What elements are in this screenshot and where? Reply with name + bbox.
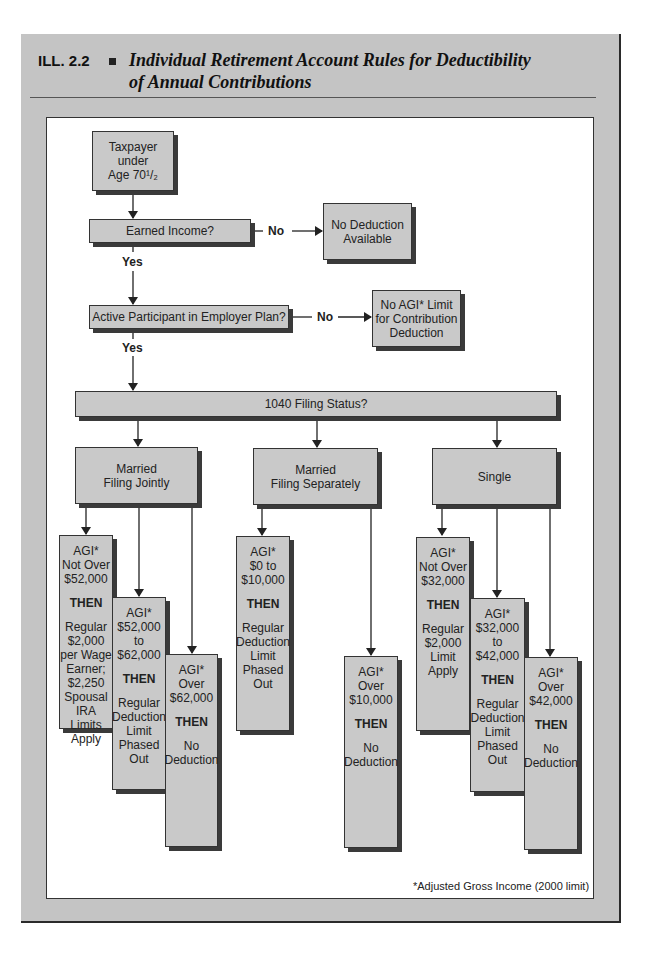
node-text: Apply: [428, 664, 458, 678]
node-text: Limit: [430, 650, 455, 664]
node-text: Limit: [126, 724, 151, 738]
node-text: Over: [178, 677, 204, 691]
node-text: Taxpayer: [109, 140, 158, 154]
node-text: No AGI* Limit: [380, 298, 452, 312]
node-text: No: [363, 741, 378, 755]
then-label: THEN: [481, 673, 514, 687]
earned-income-no-label: No: [265, 224, 287, 238]
node-text: AGI*: [485, 607, 510, 621]
node-text: Regular: [65, 620, 107, 634]
node-text: $2,250: [68, 676, 105, 690]
node-text: Limit: [485, 725, 510, 739]
node-text: Deduction: [164, 753, 218, 767]
node-text: Earner;: [66, 662, 105, 676]
then-label: THEN: [355, 717, 388, 731]
outcome-mfj-over-62000: AGI* Over $62,000 THEN No Deduction: [165, 654, 218, 847]
node-text: Regular: [118, 696, 160, 710]
node-text: Regular: [242, 621, 284, 635]
node-text: Active Participant in Employer Plan?: [92, 310, 285, 324]
decision-earned-income: Earned Income?: [89, 219, 251, 243]
node-text: $2,000: [68, 634, 105, 648]
outcome-single-not-over-32000: AGI* Not Over $32,000 THEN Regular $2,00…: [416, 537, 470, 731]
node-text: Married: [116, 462, 157, 476]
active-participant-yes-label: Yes: [119, 341, 146, 355]
status-married-filing-separately: Married Filing Separately: [253, 448, 378, 505]
node-text: Out: [253, 677, 272, 691]
active-participant-no-label: No: [314, 310, 336, 324]
node-text: Not Over: [62, 558, 110, 572]
node-text: $32,000: [476, 621, 519, 635]
decision-filing-status: 1040 Filing Status?: [75, 391, 557, 417]
node-text: $10,000: [241, 573, 284, 587]
node-text: Deduction: [344, 755, 398, 769]
node-text: Spousal: [64, 690, 107, 704]
node-text: under: [118, 154, 149, 168]
node-text: Over: [538, 680, 564, 694]
node-text: Married: [295, 463, 336, 477]
node-text: Out: [129, 752, 148, 766]
outcome-single-32000-to-42000: AGI* $32,000 to $42,000 THEN Regular Ded…: [470, 598, 525, 792]
then-label: THEN: [247, 597, 280, 611]
node-text: AGI*: [179, 663, 204, 677]
node-text: AGI*: [538, 666, 563, 680]
node-text: No: [543, 742, 558, 756]
node-text: Single: [478, 470, 511, 484]
node-text: AGI*: [73, 544, 98, 558]
node-text: $62,000: [170, 691, 213, 705]
node-text: Out: [488, 753, 507, 767]
node-text: $2,000: [425, 636, 462, 650]
node-text: $32,000: [421, 574, 464, 588]
node-text: to: [492, 635, 502, 649]
then-label: THEN: [123, 672, 156, 686]
node-text: Age 70¹/₂: [108, 168, 158, 182]
then-label: THEN: [70, 596, 103, 610]
node-text: $42,000: [476, 649, 519, 663]
node-text: AGI*: [126, 606, 151, 620]
node-text: Phased: [119, 738, 160, 752]
outcome-mfs-over-10000: AGI* Over $10,000 THEN No Deduction: [344, 656, 398, 848]
node-text: Limit: [250, 649, 275, 663]
node-text: $52,000: [64, 572, 107, 586]
node-text: Deduction: [236, 635, 290, 649]
status-single: Single: [432, 448, 557, 505]
node-text: $0 to: [250, 559, 277, 573]
start-node-taxpayer: Taxpayer under Age 70¹/₂: [92, 131, 174, 191]
earned-income-yes-label: Yes: [119, 255, 146, 269]
node-text: Apply: [71, 732, 101, 746]
outcome-no-agi-limit: No AGI* Limit for Contribution Deduction: [372, 290, 461, 347]
node-text: Available: [343, 232, 391, 246]
node-text: Regular: [476, 697, 518, 711]
then-label: THEN: [535, 718, 568, 732]
outcome-mfj-not-over-52000: AGI* Not Over $52,000 THEN Regular $2,00…: [59, 535, 113, 729]
node-text: per Wage: [60, 648, 112, 662]
node-text: Regular: [422, 622, 464, 636]
node-text: Over: [358, 679, 384, 693]
node-text: Deduction: [389, 326, 443, 340]
node-text: Limits: [70, 718, 101, 732]
node-text: Phased: [477, 739, 518, 753]
outcome-no-deduction-available: No Deduction Available: [323, 203, 412, 260]
outcome-single-over-42000: AGI* Over $42,000 THEN No Deduction: [524, 657, 578, 850]
node-text: No: [184, 739, 199, 753]
node-text: $52,000: [117, 620, 160, 634]
status-married-filing-jointly: Married Filing Jointly: [75, 447, 198, 504]
node-text: $42,000: [529, 694, 572, 708]
node-text: Deduction: [470, 711, 524, 725]
node-text: AGI*: [250, 545, 275, 559]
node-text: to: [134, 634, 144, 648]
node-text: $62,000: [117, 648, 160, 662]
then-label: THEN: [175, 715, 208, 729]
outcome-mfj-52000-to-62000: AGI* $52,000 to $62,000 THEN Regular Ded…: [112, 597, 166, 790]
node-text: AGI*: [358, 665, 383, 679]
node-text: Filing Separately: [271, 477, 360, 491]
node-text: Phased: [243, 663, 284, 677]
node-text: Deduction: [112, 710, 166, 724]
node-text: Deduction: [524, 756, 578, 770]
footnote-agi: *Adjusted Gross Income (2000 limit): [413, 880, 589, 892]
node-text: Not Over: [419, 560, 467, 574]
node-text: Earned Income?: [126, 224, 214, 238]
node-text: Filing Jointly: [103, 476, 169, 490]
node-text: 1040 Filing Status?: [265, 397, 368, 411]
node-text: IRA: [76, 704, 96, 718]
decision-active-participant: Active Participant in Employer Plan?: [89, 305, 289, 329]
